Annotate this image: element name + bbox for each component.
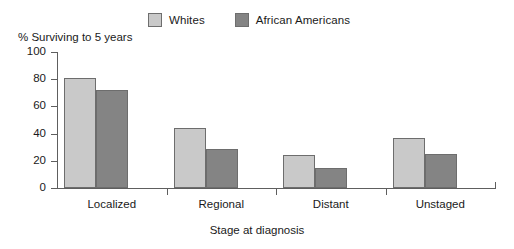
- category-label-distant: Distant: [276, 198, 386, 211]
- bar-regional-african-americans: [206, 149, 238, 188]
- legend-swatch-icon-whites: [148, 13, 162, 27]
- legend-label-african-americans: African Americans: [256, 14, 350, 26]
- legend-entry-whites: Whites: [148, 13, 205, 27]
- y-tick-label: 100: [0, 46, 46, 57]
- bar-regional-whites: [174, 128, 206, 188]
- y-tick-label: 80: [0, 73, 46, 84]
- category-label-regional: Regional: [167, 198, 277, 211]
- bar-chart: Whites African Americans % Surviving to …: [0, 0, 514, 249]
- y-tick-label: 40: [0, 128, 46, 139]
- bar-unstaged-whites: [393, 138, 425, 188]
- x-axis-title: Stage at diagnosis: [0, 224, 514, 237]
- bar-distant-african-americans: [315, 168, 347, 188]
- x-tick-mark: [167, 189, 168, 195]
- legend-label-whites: Whites: [169, 14, 205, 26]
- y-tick-label: 60: [0, 100, 46, 111]
- legend-entry-african-americans: African Americans: [235, 13, 350, 27]
- bar-distant-whites: [283, 155, 315, 188]
- x-tick-mark: [276, 189, 277, 195]
- y-tick-label: 0: [0, 182, 46, 193]
- x-axis-end-tick: [495, 182, 496, 189]
- category-label-unstaged: Unstaged: [386, 198, 496, 211]
- y-tick-label: 20: [0, 155, 46, 166]
- y-axis-title: % Surviving to 5 years: [18, 31, 132, 44]
- x-tick-mark: [386, 189, 387, 195]
- plot-area: [57, 52, 495, 188]
- category-label-localized: Localized: [57, 198, 167, 211]
- bar-localized-whites: [64, 78, 96, 188]
- bar-localized-african-americans: [96, 90, 128, 188]
- legend-swatch-icon-african-americans: [235, 13, 249, 27]
- y-tick-mark: [51, 188, 57, 189]
- bar-unstaged-african-americans: [425, 154, 457, 188]
- chart-legend: Whites African Americans: [148, 13, 350, 27]
